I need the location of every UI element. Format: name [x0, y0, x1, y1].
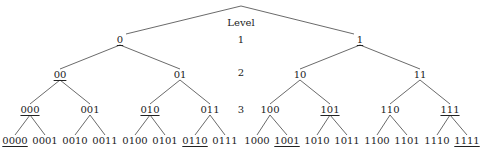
- tree-edge: [60, 45, 120, 69]
- tree-node-1001: 1001: [274, 136, 299, 146]
- tree-node-1010: 1010: [304, 136, 329, 146]
- tree-edge: [180, 80, 210, 104]
- tree-node-0: 0: [117, 35, 123, 45]
- tree-edge: [210, 115, 225, 135]
- level-number-3: 3: [238, 105, 244, 115]
- tree-node-0110: 0110: [182, 136, 207, 146]
- tree-node-1000: 1000: [244, 136, 269, 146]
- tree-edge: [241, 6, 354, 34]
- tree-edge: [15, 115, 30, 135]
- tree-edge: [300, 45, 360, 69]
- tree-edge: [60, 80, 90, 104]
- tree-node-1011: 1011: [334, 136, 359, 146]
- tree-node-1110: 1110: [424, 136, 449, 146]
- tree-edge: [126, 6, 241, 34]
- tree-edge: [317, 115, 330, 135]
- tree-edge: [30, 80, 60, 104]
- tree-node-01: 01: [174, 70, 187, 80]
- tree-node-101: 101: [320, 105, 339, 115]
- tree-edge: [120, 45, 180, 69]
- tree-edge: [90, 115, 105, 135]
- tree-node-1101: 1101: [394, 136, 419, 146]
- tree-node-10: 10: [294, 70, 307, 80]
- tree-edge: [437, 115, 450, 135]
- tree-node-11: 11: [414, 70, 427, 80]
- tree-node-0011: 0011: [92, 136, 117, 146]
- tree-edge: [75, 115, 90, 135]
- tree-node-011: 011: [200, 105, 219, 115]
- tree-edge: [450, 115, 467, 135]
- tree-edge: [270, 115, 287, 135]
- tree-edge: [390, 115, 407, 135]
- tree-node-0111: 0111: [212, 136, 237, 146]
- tree-edge: [30, 115, 45, 135]
- tree-edge: [270, 80, 300, 104]
- binary-tree-diagram: 0100011011000001010011100101110111000000…: [0, 0, 483, 152]
- tree-node-0100: 0100: [122, 136, 147, 146]
- tree-node-1100: 1100: [364, 136, 389, 146]
- tree-node-001: 001: [80, 105, 99, 115]
- tree-edge: [420, 80, 450, 104]
- level-heading: Level: [227, 18, 254, 28]
- tree-edge: [377, 115, 390, 135]
- tree-node-010: 010: [140, 105, 159, 115]
- tree-node-00: 00: [54, 70, 67, 80]
- tree-edge: [150, 115, 165, 135]
- tree-edge: [195, 115, 210, 135]
- tree-edge: [300, 80, 330, 104]
- level-number-2: 2: [238, 68, 244, 78]
- tree-node-0010: 0010: [62, 136, 87, 146]
- tree-node-0000: 0000: [2, 136, 27, 146]
- tree-node-110: 110: [380, 105, 399, 115]
- tree-node-000: 000: [20, 105, 39, 115]
- level-number-1: 1: [238, 35, 244, 45]
- tree-edge: [360, 45, 420, 69]
- tree-node-1: 1: [357, 35, 363, 45]
- tree-node-0101: 0101: [152, 136, 177, 146]
- tree-node-100: 100: [260, 105, 279, 115]
- tree-edge: [330, 115, 347, 135]
- tree-edge: [390, 80, 420, 104]
- tree-edge: [150, 80, 180, 104]
- tree-node-1111: 1111: [454, 136, 479, 146]
- tree-node-0001: 0001: [32, 136, 57, 146]
- tree-edge: [257, 115, 270, 135]
- tree-node-111: 111: [440, 105, 459, 115]
- tree-edge: [135, 115, 150, 135]
